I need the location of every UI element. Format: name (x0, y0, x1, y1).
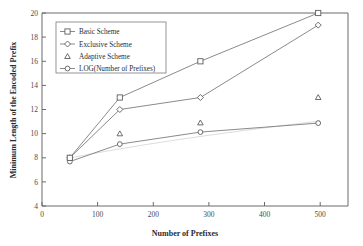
series-adaptive-scheme (67, 95, 321, 160)
data-point (197, 95, 203, 101)
y-tick-label: 8 (34, 153, 38, 162)
y-tick-label: 12 (31, 105, 39, 114)
x-tick-label: 400 (259, 210, 271, 219)
y-tick-label: 20 (31, 9, 39, 18)
y-axis-tick-labels: 20 18 16 14 12 10 8 6 4 (31, 9, 39, 211)
chart-canvas: 20 18 16 14 12 10 8 6 4 0 100 200 300 40… (0, 0, 363, 246)
data-point (316, 10, 321, 15)
adaptive-trend-curve (70, 121, 320, 158)
data-point (198, 59, 203, 64)
y-axis-ticks (42, 13, 46, 206)
data-point (67, 155, 72, 160)
square-icon (65, 29, 70, 34)
x-axis-ticks (42, 202, 320, 206)
legend-label: Adaptive Scheme (79, 53, 130, 61)
data-point (117, 95, 122, 100)
x-axis-title: Number of Prefixes (152, 229, 218, 238)
series-log-number-of-prefixes (67, 121, 320, 164)
legend-label: LOG(Number of Prefixes) (79, 65, 156, 73)
y-tick-label: 16 (31, 57, 39, 66)
y-tick-label: 18 (31, 33, 39, 42)
data-point (315, 95, 321, 100)
x-tick-label: 100 (92, 210, 104, 219)
x-tick-label: 300 (203, 210, 215, 219)
data-point (315, 22, 321, 28)
y-tick-label: 10 (31, 129, 39, 138)
x-axis-tick-labels: 0 100 200 300 400 500 (40, 210, 326, 219)
data-point (198, 120, 204, 125)
data-point (316, 121, 321, 126)
x-tick-label: 200 (148, 210, 160, 219)
data-point (117, 131, 123, 136)
y-tick-label: 4 (34, 202, 38, 211)
data-point (117, 142, 122, 147)
data-point (198, 130, 203, 135)
chart-legend: Basic Scheme Exclusive Scheme Adaptive S… (56, 22, 166, 73)
legend-label: Basic Scheme (79, 28, 120, 36)
y-tick-label: 6 (34, 178, 38, 187)
x-tick-label: 500 (315, 210, 327, 219)
x-tick-label: 0 (40, 210, 44, 219)
y-tick-label: 14 (31, 81, 39, 90)
y-axis-title: Minimum Length of the Encoded Prefix (9, 42, 18, 179)
chart-figure: 20 18 16 14 12 10 8 6 4 0 100 200 300 40… (0, 0, 363, 246)
legend-label: Exclusive Scheme (79, 41, 132, 49)
circle-icon (65, 66, 70, 71)
series-line (70, 123, 318, 162)
